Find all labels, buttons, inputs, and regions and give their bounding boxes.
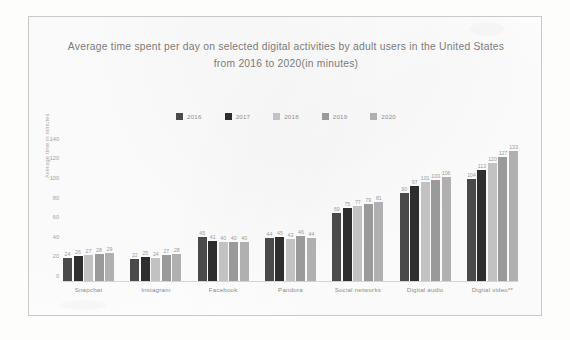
- bar-value-label: 40: [231, 235, 237, 241]
- bar[interactable]: 81: [374, 202, 383, 281]
- bar-fill: [488, 163, 497, 281]
- bar-group: 9097101103106: [400, 140, 451, 281]
- bar-value-label: 133: [509, 144, 518, 150]
- y-axis-tick: 0: [56, 273, 59, 279]
- bar[interactable]: 28: [95, 254, 104, 281]
- bar-fill: [477, 170, 486, 281]
- bar-value-label: 24: [153, 251, 159, 257]
- bar[interactable]: 79: [364, 204, 373, 281]
- bar-fill: [467, 179, 476, 281]
- legend-swatch-icon: [322, 113, 329, 120]
- legend-label: 2020: [381, 113, 396, 120]
- bar-groups: 2426272829222524272845414040404445434644…: [63, 140, 518, 281]
- x-axis-label: Instagram: [130, 286, 181, 302]
- legend-label: 2018: [284, 113, 299, 120]
- bar-fill: [400, 193, 409, 281]
- bar[interactable]: 24: [151, 258, 160, 282]
- bar-value-label: 101: [421, 175, 430, 181]
- bar[interactable]: 43: [286, 239, 295, 281]
- bar-group: 2225242728: [130, 140, 181, 281]
- bar-value-label: 46: [298, 229, 304, 235]
- legend-item-2019[interactable]: 2019: [322, 113, 348, 120]
- bar[interactable]: 41: [208, 241, 217, 281]
- bar[interactable]: 101: [421, 182, 430, 281]
- legend-swatch-icon: [176, 113, 183, 120]
- legend-item-2017[interactable]: 2017: [225, 113, 251, 120]
- bar-value-label: 120: [488, 156, 497, 162]
- bar-value-label: 69: [334, 206, 340, 212]
- bar-value-label: 40: [241, 235, 247, 241]
- bar-fill: [431, 180, 440, 281]
- bar-value-label: 127: [499, 150, 508, 156]
- bar[interactable]: 44: [307, 238, 316, 281]
- y-axis-tick: 80: [53, 195, 59, 201]
- bar[interactable]: 45: [275, 237, 284, 281]
- legend-item-2016[interactable]: 2016: [176, 113, 202, 120]
- bar[interactable]: 113: [477, 170, 486, 281]
- bar-value-label: 45: [199, 230, 205, 236]
- bar-fill: [198, 237, 207, 281]
- x-axis-label: Digital video**: [467, 286, 518, 302]
- chart-title-line1: Average time spent per day on selected d…: [68, 41, 504, 52]
- bar[interactable]: 40: [240, 242, 249, 281]
- bar-fill: [421, 182, 430, 281]
- bar-fill: [286, 239, 295, 281]
- bar-value-label: 44: [309, 231, 315, 237]
- bar[interactable]: 29: [105, 253, 114, 281]
- bar-value-label: 24: [65, 251, 71, 257]
- bar[interactable]: 106: [442, 177, 451, 281]
- x-axis-baseline: [63, 281, 518, 282]
- bar[interactable]: 127: [498, 157, 507, 281]
- bar[interactable]: 22: [130, 259, 139, 281]
- bar[interactable]: 133: [509, 151, 518, 281]
- bar-fill: [74, 256, 83, 281]
- bar-group: 104113120127133: [467, 140, 518, 281]
- bar-value-label: 106: [442, 170, 451, 176]
- bar-fill: [130, 259, 139, 281]
- bar[interactable]: 27: [162, 255, 171, 281]
- legend-swatch-icon: [273, 113, 280, 120]
- bar[interactable]: 27: [84, 255, 93, 281]
- bar[interactable]: 24: [63, 258, 72, 282]
- bar-fill: [410, 186, 419, 281]
- bar-fill: [151, 258, 160, 282]
- y-axis-tick: 100: [50, 175, 59, 181]
- x-axis-label: Digital audio: [400, 286, 451, 302]
- bar-value-label: 22: [132, 252, 138, 258]
- y-axis-tick: 40: [53, 234, 59, 240]
- bar[interactable]: 25: [141, 257, 150, 281]
- bar[interactable]: 90: [400, 193, 409, 281]
- bar-fill: [229, 242, 238, 281]
- bar[interactable]: 28: [172, 254, 181, 281]
- bar-value-label: 26: [75, 249, 81, 255]
- bar-value-label: 75: [344, 201, 350, 207]
- bar-fill: [162, 255, 171, 281]
- legend-swatch-icon: [225, 113, 232, 120]
- bar[interactable]: 75: [343, 208, 352, 281]
- bar[interactable]: 40: [229, 242, 238, 281]
- bar-value-label: 77: [355, 199, 361, 205]
- y-axis-tick: 120: [50, 155, 59, 161]
- bar-value-label: 29: [107, 246, 113, 252]
- bar-group: 2426272829: [63, 140, 114, 281]
- bar[interactable]: 46: [296, 236, 305, 281]
- bar[interactable]: 103: [431, 180, 440, 281]
- bar[interactable]: 77: [353, 206, 362, 281]
- bar[interactable]: 69: [332, 213, 341, 281]
- x-axis-label: Social networks: [332, 286, 383, 302]
- bar[interactable]: 44: [265, 238, 274, 281]
- x-axis-label: Pandora: [265, 286, 316, 302]
- legend-swatch-icon: [370, 113, 377, 120]
- bar[interactable]: 104: [467, 179, 476, 281]
- bar[interactable]: 45: [198, 237, 207, 281]
- bar[interactable]: 97: [410, 186, 419, 281]
- bar[interactable]: 40: [219, 242, 228, 281]
- bar-fill: [275, 237, 284, 281]
- bar[interactable]: 120: [488, 163, 497, 281]
- bar-value-label: 81: [376, 195, 382, 201]
- legend-item-2018[interactable]: 2018: [273, 113, 299, 120]
- bar[interactable]: 26: [74, 256, 83, 281]
- bar-fill: [95, 254, 104, 281]
- legend-item-2020[interactable]: 2020: [370, 113, 396, 120]
- x-axis-label: Snapchat: [63, 286, 114, 302]
